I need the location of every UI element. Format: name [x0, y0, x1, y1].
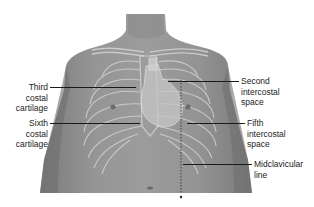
label-third-costal-cartilage: Third costal cartilage: [2, 82, 48, 114]
label-second-intercostal-space: Second intercostal space: [241, 76, 311, 108]
left-nipple: [111, 105, 116, 110]
navel: [147, 187, 153, 190]
label-sixth-costal-cartilage: Sixth costal cartilage: [2, 118, 48, 150]
leader-midclavicular-line: [183, 164, 252, 165]
leader-sixth-costal-cartilage: [50, 123, 140, 124]
label-fifth-intercostal-space: Fifth intercostal space: [247, 118, 313, 150]
midclavicular-end-dot: [180, 196, 182, 198]
right-nipple: [186, 105, 191, 110]
leader-third-costal-cartilage: [50, 87, 136, 88]
leader-fifth-intercostal-space: [187, 123, 245, 124]
label-midclavicular-line: Midclavicular line: [254, 159, 314, 180]
leader-second-intercostal-space: [168, 81, 239, 82]
